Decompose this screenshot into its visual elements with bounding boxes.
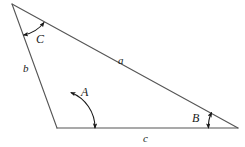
angle-label-A: A: [81, 86, 88, 98]
angle-B-arc: [208, 113, 211, 128]
angle-label-B: B: [192, 112, 199, 124]
side-a-line: [12, 4, 238, 128]
side-label-c: c: [143, 133, 148, 144]
angle-label-C: C: [36, 33, 44, 45]
triangle-diagram-svg: [0, 0, 245, 147]
side-label-a: a: [118, 55, 124, 66]
side-b-line: [12, 4, 57, 128]
triangle-figure: a b c A B C: [0, 0, 245, 147]
side-label-b: b: [23, 63, 29, 74]
